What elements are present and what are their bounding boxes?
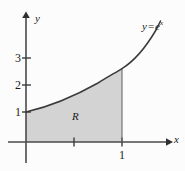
x-axis-arrowhead	[166, 138, 173, 146]
figure-container: 3 2 1 1 y x R y=ex	[0, 0, 185, 171]
x-tick-label-1: 1	[119, 149, 125, 161]
y-axis-label: y	[35, 13, 40, 24]
x-axis-label: x	[174, 134, 179, 145]
y-axis-arrowhead	[22, 12, 30, 19]
y-tick-label-2: 2	[15, 79, 21, 91]
curve-equation-exponent: x	[160, 19, 163, 27]
y-tick-label-3: 3	[15, 52, 21, 64]
curve-equation-label: y=ex	[142, 21, 163, 32]
shaded-region-r	[26, 69, 122, 142]
curve-equation-operator: =	[147, 20, 155, 32]
y-tick-label-1: 1	[15, 106, 21, 118]
region-label-r: R	[72, 111, 79, 122]
